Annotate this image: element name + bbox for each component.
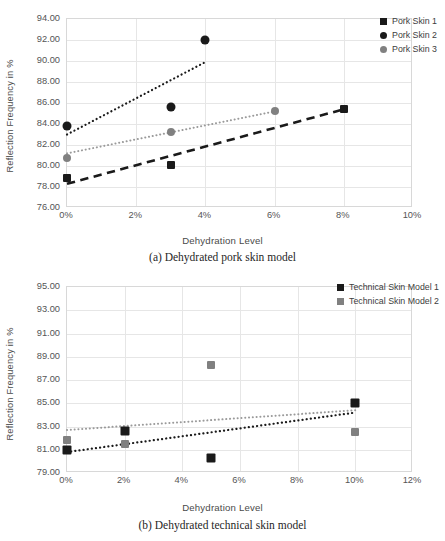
xtick-label: 0% [59,475,72,485]
gridline-vertical [182,287,183,471]
data-point [167,128,175,136]
chart-a-ytick-labels: 76.0078.0080.0082.0084.0086.0088.0090.00… [16,0,60,232]
ytick-label: 91.00 [37,328,60,338]
ytick-label: 82.00 [37,139,60,149]
gridline-horizontal [67,357,411,358]
figure-b: Reflection Frequency in % 79.0081.0083.0… [0,270,445,541]
chart-a-plot-area [66,18,412,207]
chart-a-ylabel-text: Reflection Frequency in % [5,59,15,172]
gridline-vertical [240,287,241,471]
ytick-label: 81.00 [37,444,60,454]
xtick-label: 2% [128,210,141,220]
legend-item[interactable]: Technical Skin Model 1 [337,282,439,294]
data-point [63,174,71,182]
gridline-horizontal [67,310,411,311]
data-point [63,122,72,131]
chart-a-xlabel: Dehydration Level [0,235,445,246]
legend-label: Pork Skin 1 [392,16,437,28]
gridline-horizontal [67,61,411,62]
chart-b-caption: (b) Dehydrated technical skin model [0,519,445,531]
legend-square-icon [337,284,344,291]
legend-item[interactable]: Pork Skin 1 [380,16,437,28]
chart-b-canvas: Reflection Frequency in % 79.0081.0083.0… [0,270,445,498]
legend-item[interactable]: Pork Skin 3 [380,44,437,56]
xtick-label: 4% [198,210,211,220]
data-point [166,103,175,112]
xtick-label: 4% [175,475,188,485]
trendline-technical-skin-model-1 [67,413,355,453]
data-point [167,161,175,169]
ytick-label: 88.00 [37,76,60,86]
xtick-label: 0% [59,210,72,220]
xtick-label: 10% [345,475,364,485]
data-point [120,427,129,436]
gridline-vertical [136,19,137,206]
ytick-label: 94.00 [37,13,60,23]
gridline-horizontal [67,40,411,41]
legend-square-icon [337,298,344,305]
xtick-label: 8% [336,210,349,220]
ytick-label: 84.00 [37,118,60,128]
figure-a: Reflection Frequency in % 76.0078.0080.0… [0,0,445,270]
ytick-label: 80.00 [37,160,60,170]
gridline-vertical [355,287,356,471]
ytick-label: 85.00 [37,397,60,407]
chart-a-xtick-labels: 0%2%4%6%8%10% [0,210,445,226]
legend-square-icon [380,18,387,25]
data-point [271,107,279,115]
ytick-label: 90.00 [37,55,60,65]
legend-circle-icon [380,32,387,39]
data-point [201,36,210,45]
gridline-horizontal [67,450,411,451]
chart-b-plot-area [66,286,412,472]
chart-b-ylabel-text: Reflection Frequency in % [5,327,15,440]
gridline-horizontal [67,334,411,335]
gridline-horizontal [67,380,411,381]
xtick-label: 2% [117,475,130,485]
chart-b-xlabel: Dehydration Level [0,502,445,513]
legend-label: Pork Skin 2 [392,30,437,42]
gridline-vertical [205,19,206,206]
chart-b-xtick-labels: 0%2%4%6%8%10%12% [0,475,445,491]
xtick-label: 8% [290,475,303,485]
ytick-label: 95.00 [37,281,60,291]
legend-label: Pork Skin 3 [392,44,437,56]
gridline-vertical [298,287,299,471]
trendline-layer [67,19,413,208]
gridline-horizontal [67,427,411,428]
ytick-label: 89.00 [37,351,60,361]
data-point [351,428,359,436]
gridline-horizontal [67,103,411,104]
ytick-label: 93.00 [37,304,60,314]
legend-label: Technical Skin Model 1 [349,282,439,294]
chart-a-caption: (a) Dehydrated pork skin model [0,251,445,263]
xtick-label: 10% [403,210,422,220]
legend-label: Technical Skin Model 2 [349,296,439,308]
data-point [207,361,215,369]
gridline-horizontal [67,166,411,167]
ytick-label: 92.00 [37,34,60,44]
data-point [63,154,71,162]
legend-item[interactable]: Technical Skin Model 2 [337,296,439,308]
legend-circle-icon [380,46,387,53]
data-point [340,105,348,113]
xtick-label: 6% [267,210,280,220]
ytick-label: 86.00 [37,97,60,107]
ytick-label: 83.00 [37,421,60,431]
gridline-horizontal [67,187,411,188]
legend-item[interactable]: Pork Skin 2 [380,30,437,42]
chart-a-canvas: Reflection Frequency in % 76.0078.0080.0… [0,0,445,232]
ytick-label: 87.00 [37,374,60,384]
gridline-horizontal [67,82,411,83]
chart-a-legend: Pork Skin 1Pork Skin 2Pork Skin 3 [380,16,437,56]
xtick-label: 12% [403,475,422,485]
data-point [351,399,360,408]
chart-b-legend: Technical Skin Model 1Technical Skin Mod… [337,282,439,308]
xtick-label: 6% [232,475,245,485]
data-point [63,436,71,444]
data-point [121,440,129,448]
ytick-label: 78.00 [37,181,60,191]
gridline-horizontal [67,124,411,125]
data-point [63,445,72,454]
gridline-horizontal [67,145,411,146]
